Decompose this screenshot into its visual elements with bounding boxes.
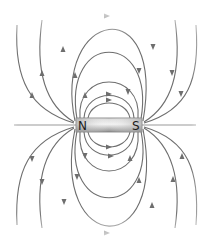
- fade-bottom: [0, 212, 209, 247]
- arrow-down-icon: [83, 153, 88, 159]
- arrow-up-icon: [150, 202, 155, 208]
- arrow-down-icon: [126, 89, 131, 95]
- arrow-down-icon: [30, 156, 35, 162]
- arrow-up-icon: [61, 46, 66, 52]
- arrow-down-icon: [179, 91, 184, 97]
- field-loop-top-5: [72, 29, 146, 121]
- field-loop-bottom-1: [88, 132, 130, 147]
- field-open-bottom-right-2: [144, 127, 197, 225]
- fade-right: [191, 0, 209, 247]
- arrow-down-icon: [62, 199, 67, 205]
- arrow-right-icon: [106, 145, 112, 150]
- north-pole-label: N: [78, 119, 87, 133]
- fade-top: [0, 0, 209, 40]
- field-loop-top-1: [88, 103, 130, 118]
- arrow-right-icon: [106, 98, 112, 103]
- field-loop-bottom-3: [80, 132, 138, 171]
- arrow-up-icon: [40, 70, 45, 76]
- fade-left: [0, 0, 18, 247]
- bar-magnet: N S: [76, 118, 142, 133]
- arrow-up-icon: [128, 155, 133, 161]
- arrow-right-icon: [108, 154, 114, 159]
- arrow-down-icon: [151, 44, 156, 50]
- arrow-down-icon: [75, 174, 80, 180]
- field-open-bottom-left-2: [17, 127, 74, 225]
- field-loop-bottom-2: [84, 132, 134, 155]
- magnetic-field-diagram: N S: [0, 0, 209, 247]
- field-loop-top-4: [75, 52, 142, 119]
- arrow-down-icon: [170, 70, 175, 76]
- field-loop-bottom-5: [72, 129, 147, 226]
- field-loop-bottom-4: [75, 131, 143, 198]
- south-pole-label: S: [132, 119, 140, 133]
